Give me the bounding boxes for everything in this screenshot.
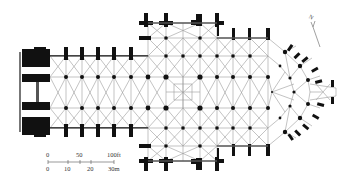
scale-meters-20: 20: [87, 166, 94, 173]
nave-south-buttresses: [64, 124, 133, 137]
south-tower: [22, 117, 50, 135]
scale-meters-10: 10: [64, 166, 71, 173]
cathedral-floor-plan: [0, 0, 364, 183]
north-arrow-icon: [311, 21, 320, 47]
central-portal-piers: [22, 74, 50, 82]
transept-north-buttresses: [139, 13, 270, 40]
scale-meters-30: 30m: [108, 166, 120, 173]
transept-south-buttresses: [139, 144, 270, 171]
scale-feet-50: 50: [76, 152, 83, 159]
scale-feet-0: 0: [46, 152, 49, 159]
nave-north-buttresses: [64, 47, 133, 60]
north-tower: [22, 49, 50, 67]
scale-bar: [48, 160, 114, 164]
scale-feet-100: 100ft: [107, 152, 121, 159]
apse-buttresses: [283, 44, 334, 141]
west-porch-line: [19, 52, 21, 132]
scale-meters-0: 0: [46, 166, 49, 173]
